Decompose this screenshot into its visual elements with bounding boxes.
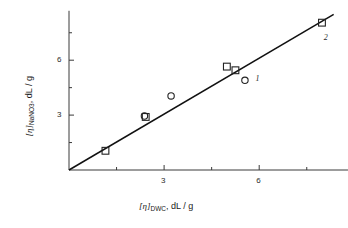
chart-figure: 3636 12 [η]DWC, dL / g [η]NaNO3, dL / g <box>0 0 348 228</box>
x-axis-tick-label: 6 <box>256 177 260 185</box>
regression-line <box>69 14 334 170</box>
x-axis-title: [η]DWC, dL / g <box>139 202 193 213</box>
y-axis-eta-symbol: η <box>24 128 34 132</box>
y-axis-tick-label: 3 <box>57 111 61 119</box>
x-axis-tick-label: 3 <box>161 177 165 185</box>
y-axis-subscript: NaNO <box>28 107 35 125</box>
fit-line <box>69 14 334 170</box>
y-axis-subscript-number: 3 <box>28 103 35 107</box>
y-axis-bracket-close: ] <box>24 125 34 129</box>
marker-circle <box>242 77 248 83</box>
y-axis-tick-label: 6 <box>57 56 61 64</box>
marker-square <box>223 63 230 70</box>
x-axis-units: , dL / g <box>166 201 193 211</box>
chart-canvas <box>0 0 348 228</box>
y-axis-units: , dL / g <box>24 76 34 103</box>
point-annotation: 1 <box>256 75 260 83</box>
y-axis-bracket-open: [ <box>24 133 34 137</box>
marker-circle <box>168 93 174 99</box>
x-axis-subscript: DWC <box>151 205 167 212</box>
point-annotation: 2 <box>324 34 328 42</box>
y-axis-title: [η]NaNO3, dL / g <box>25 51 36 161</box>
